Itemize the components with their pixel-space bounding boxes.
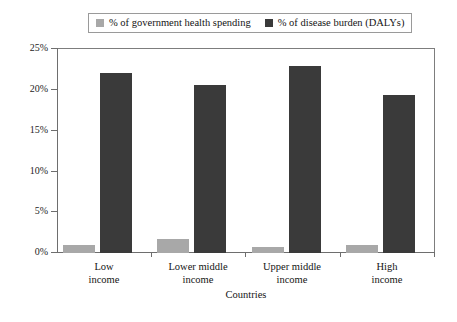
x-category-label-lower-middle-income: Lower middle income (151, 261, 245, 286)
bar-burden-lower-middle-income (194, 85, 226, 253)
category-line: income (340, 274, 434, 287)
y-tick-label: 15% (4, 125, 48, 135)
y-tick-label: 0% (4, 247, 48, 257)
legend-swatch-icon (265, 19, 273, 27)
bar-spending-high-income (346, 245, 378, 253)
legend-swatch-icon (96, 19, 104, 27)
category-line: income (151, 274, 245, 287)
legend-item-disease-burden: % of disease burden (DALYs) (265, 18, 405, 29)
y-tick-label: 25% (4, 43, 48, 53)
y-axis-labels: 25% 20% 15% 10% 5% 0% (0, 0, 48, 322)
category-line: High (340, 261, 434, 274)
legend-item-government-health-spending: % of government health spending (96, 18, 251, 29)
bar-burden-low-income (100, 73, 132, 253)
y-tick-label: 10% (4, 166, 48, 176)
category-line: Low (57, 261, 151, 274)
bar-burden-high-income (383, 95, 415, 253)
y-tick-label: 5% (4, 206, 48, 216)
bar-spending-low-income (63, 245, 95, 253)
bar-burden-upper-middle-income (289, 66, 321, 253)
x-category-label-high-income: High income (340, 261, 434, 286)
bar-spending-upper-middle-income (252, 247, 284, 253)
category-line: Upper middle (245, 261, 339, 274)
chart-legend: % of government health spending % of dis… (88, 13, 412, 33)
bar-chart: % of government health spending % of dis… (0, 0, 457, 322)
x-category-label-upper-middle-income: Upper middle income (245, 261, 339, 286)
bars-layer (57, 48, 435, 253)
category-line: income (57, 274, 151, 287)
category-line: Lower middle (151, 261, 245, 274)
y-tick-label: 20% (4, 84, 48, 94)
x-axis-title: Countries (57, 289, 435, 300)
legend-label: % of disease burden (DALYs) (278, 18, 405, 29)
bar-spending-lower-middle-income (157, 239, 189, 253)
x-category-label-low-income: Low income (57, 261, 151, 286)
legend-label: % of government health spending (109, 18, 251, 29)
category-line: income (245, 274, 339, 287)
